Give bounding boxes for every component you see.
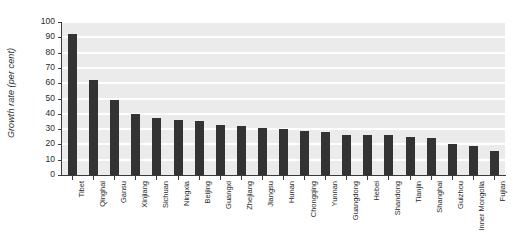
bar [216, 125, 225, 175]
y-axis-tick-label: 40 [46, 108, 55, 119]
bar [131, 114, 140, 175]
y-axis-title-text: Growth rate (per cent) [6, 47, 16, 137]
y-axis-tick-label: 60 [46, 77, 55, 88]
x-axis-tick-mark [262, 176, 263, 180]
bar [321, 132, 330, 175]
bar [258, 128, 267, 175]
x-axis-tick-mark [283, 176, 284, 180]
bar [490, 151, 499, 175]
x-axis-label-text: Guizhou [456, 181, 466, 209]
x-axis-label: Tianjin [405, 181, 416, 247]
x-axis-label-text: Qinghai [98, 181, 108, 207]
x-axis-label-text: Jiangsu [266, 181, 276, 207]
x-axis-label-text: Chongqing [309, 181, 319, 217]
x-axis-label: Shanghai [426, 181, 437, 247]
y-axis-tick-label: 80 [46, 47, 55, 58]
x-axis-label: Guangdong [341, 181, 352, 247]
x-axis-tick-mark [72, 176, 73, 180]
x-axis-label-text: Inner Mongolia [477, 181, 487, 231]
y-axis-tick-label: 70 [46, 62, 55, 73]
x-axis-tick-mark [346, 176, 347, 180]
x-axis-tick-mark [452, 176, 453, 180]
bar [342, 135, 351, 175]
x-axis-label-text: Xinjiang [140, 181, 150, 208]
x-axis-tick-mark [304, 176, 305, 180]
y-axis-tick-label: 90 [46, 31, 55, 42]
plot-area [62, 22, 505, 175]
x-axis-tick-mark [473, 176, 474, 180]
x-axis-label-text: Yunnan [330, 181, 340, 206]
bar [448, 144, 457, 175]
x-axis-label-text: Tianjin [414, 181, 424, 203]
x-axis-label: Guizhou [447, 181, 458, 247]
x-axis-label-text: Zhejiang [245, 181, 255, 210]
x-axis-label: Fujian [489, 181, 500, 247]
x-axis-label: Beijing [194, 181, 205, 247]
x-axis-label-text: Gansu [119, 181, 129, 203]
y-axis-tick-label: 100 [41, 16, 55, 27]
bar [237, 126, 246, 175]
x-axis-tick-mark [156, 176, 157, 180]
x-axis-tick-mark [388, 176, 389, 180]
bar [406, 137, 415, 175]
y-axis-tick-label: 10 [46, 154, 55, 165]
x-axis-label-text: Hunan [287, 181, 297, 203]
bar [110, 100, 119, 175]
x-axis-label: Yunnan [320, 181, 331, 247]
x-axis-label: Ningxia [173, 181, 184, 247]
y-axis-tick-label: 0 [50, 169, 55, 180]
y-axis-title: Growth rate (per cent) [0, 0, 22, 185]
bar-series [62, 22, 505, 175]
x-axis-label-text: Ningxia [182, 181, 192, 206]
x-axis-label: Hunan [278, 181, 289, 247]
x-axis-label-text: Fujian [498, 181, 508, 201]
x-axis-tick-mark [241, 176, 242, 180]
x-axis-ticks [62, 176, 505, 180]
x-axis-label-text: Shanghai [435, 181, 445, 213]
x-axis-tick-mark [114, 176, 115, 180]
x-axis-label: Zhejiang [236, 181, 247, 247]
y-axis-tick-label: 30 [46, 123, 55, 134]
bar [195, 121, 204, 175]
bar-chart: Growth rate (per cent) 01020304050607080… [0, 0, 525, 248]
x-axis-label: Chongqing [299, 181, 310, 247]
x-axis-label-text: Shandong [393, 181, 403, 215]
bar [89, 80, 98, 175]
x-axis-tick-mark [178, 176, 179, 180]
x-axis-label-text: Guangdong [351, 181, 361, 220]
bar [279, 129, 288, 175]
x-axis-label: Tibet [67, 181, 78, 247]
x-axis-label: Shandong [383, 181, 394, 247]
x-axis-label: Sichuan [151, 181, 162, 247]
x-axis-label: Xinjiang [130, 181, 141, 247]
x-axis-label: Guangxi [215, 181, 226, 247]
x-axis-label: Inner Mongolia [468, 181, 479, 247]
y-axis-tick-label: 50 [46, 93, 55, 104]
x-axis-tick-mark [93, 176, 94, 180]
bar [469, 146, 478, 175]
bar [363, 135, 372, 175]
bar [68, 34, 77, 175]
x-axis-tick-mark [220, 176, 221, 180]
x-axis-tick-mark [199, 176, 200, 180]
x-axis-tick-mark [410, 176, 411, 180]
x-axis-label-text: Guangxi [224, 181, 234, 209]
x-axis-label: Jiangsu [257, 181, 268, 247]
x-axis-tick-mark [367, 176, 368, 180]
x-axis-label-text: Hebei [372, 181, 382, 201]
x-axis-labels: TibetQinghaiGansuXinjiangSichuanNingxiaB… [62, 181, 505, 247]
x-axis-label-text: Tibet [77, 181, 87, 197]
x-axis-label: Gansu [109, 181, 120, 247]
x-axis-tick-mark [325, 176, 326, 180]
bar [300, 131, 309, 175]
y-axis-tick-label: 20 [46, 138, 55, 149]
x-axis-tick-mark [135, 176, 136, 180]
bar [427, 138, 436, 175]
x-axis-tick-mark [431, 176, 432, 180]
x-axis-label: Hebei [362, 181, 373, 247]
x-axis-label-text: Sichuan [161, 181, 171, 208]
bar [384, 135, 393, 175]
x-axis-label: Qinghai [88, 181, 99, 247]
y-axis: 0102030405060708090100 [22, 18, 62, 178]
x-axis-tick-mark [494, 176, 495, 180]
